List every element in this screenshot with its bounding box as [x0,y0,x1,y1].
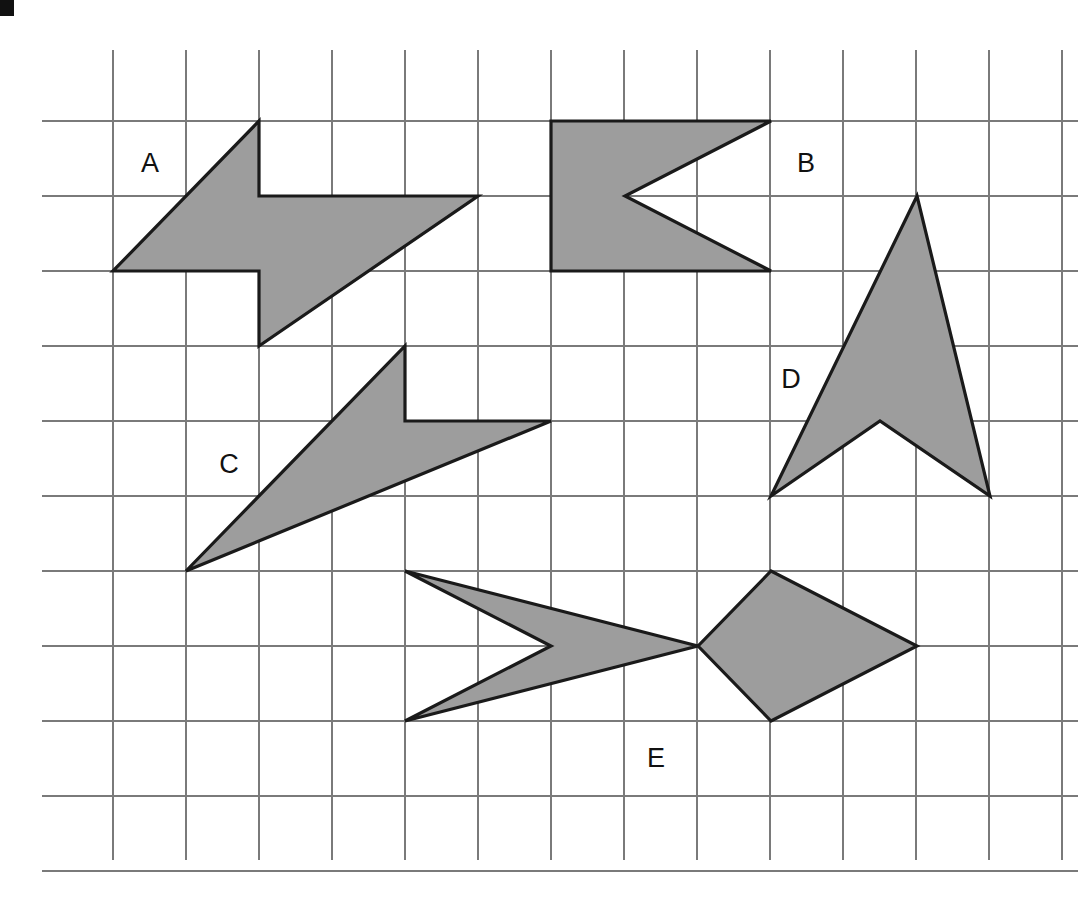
page-corner-mark [0,0,14,16]
shape-label-e: E [647,743,665,773]
grid-shapes-figure: ABCDE [0,0,1079,901]
shape-label-c: C [219,449,239,479]
shape-label-d: D [781,364,801,394]
shape-label-b: B [797,148,815,178]
shape-label-a: A [141,148,159,178]
worksheet-canvas: ABCDE [0,0,1079,901]
page-background [0,0,1079,901]
